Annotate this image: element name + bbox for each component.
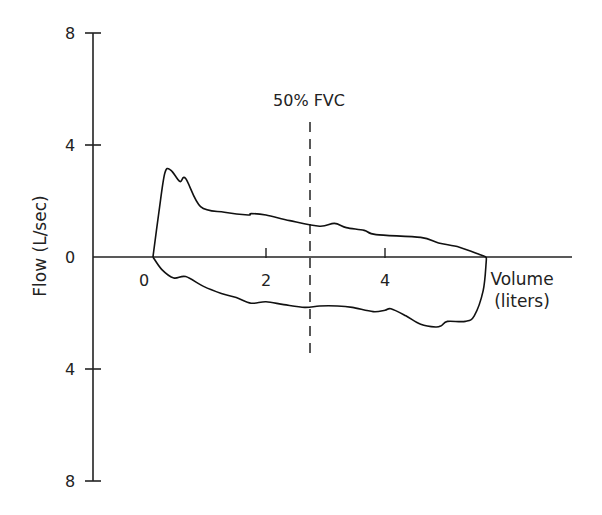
x-tick-label: 0: [139, 271, 149, 290]
chart-canvas: 84048024 50% FVC Volume(liters)Flow (L/s…: [0, 0, 602, 515]
flow-volume-chart: 84048024 50% FVC Volume(liters)Flow (L/s…: [0, 0, 602, 515]
y-tick-label: 4: [65, 360, 75, 379]
x-axis-label-line1: Volume: [490, 269, 553, 289]
y-axis-label: Flow (L/sec): [30, 195, 50, 296]
y-tick-label: 0: [65, 248, 75, 267]
expiratory-curve: [153, 168, 486, 257]
x-axis-label-line2: (liters): [494, 291, 550, 311]
x-tick-label: 4: [380, 271, 390, 290]
inspiratory-curve: [153, 257, 486, 327]
y-tick-label: 8: [65, 24, 75, 43]
fvc-50-label: 50% FVC: [273, 91, 345, 110]
y-tick-label: 4: [65, 136, 75, 155]
y-tick-label: 8: [65, 472, 75, 491]
curves: [153, 168, 486, 327]
x-tick-label: 2: [261, 271, 271, 290]
